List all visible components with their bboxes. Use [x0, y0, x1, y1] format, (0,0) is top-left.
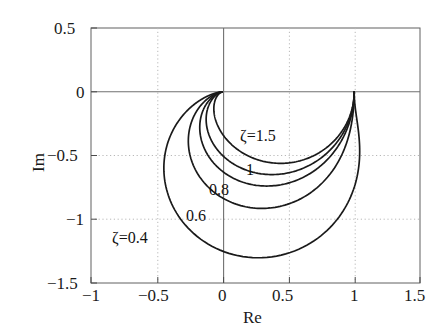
- ytick-label--0.5: −0.5: [47, 147, 78, 164]
- curve-label-1: 1: [246, 162, 254, 178]
- ytick-label--1.5: −1.5: [47, 275, 78, 292]
- curve-label-0.8: 0.8: [209, 182, 229, 198]
- xtick-label--0.5: −0.5: [138, 287, 169, 304]
- x-axis-title: Re: [243, 309, 262, 326]
- curve-label-0.6: 0.6: [186, 208, 206, 224]
- curve-label-zeta-0.4: ζ=0.4: [112, 230, 148, 246]
- y-axis-title: Im: [30, 153, 47, 172]
- ytick-label--1: −1: [66, 211, 84, 228]
- xtick-label--1: −1: [82, 287, 100, 304]
- nyquist-polar-plot-figure: 0.5 0 −0.5 −1 −1.5 −1 −0.5 0 0.5 1 1.5 R…: [0, 0, 445, 336]
- xtick-label-0.5: 0.5: [272, 287, 293, 304]
- xtick-label-1: 1: [350, 287, 359, 304]
- xtick-label-0: 0: [218, 287, 227, 304]
- ytick-label-0: 0: [76, 84, 85, 101]
- xtick-label-1.5: 1.5: [404, 287, 425, 304]
- ytick-label-0.5: 0.5: [54, 20, 75, 37]
- curve-label-zeta-1.5: ζ=1.5: [240, 128, 276, 144]
